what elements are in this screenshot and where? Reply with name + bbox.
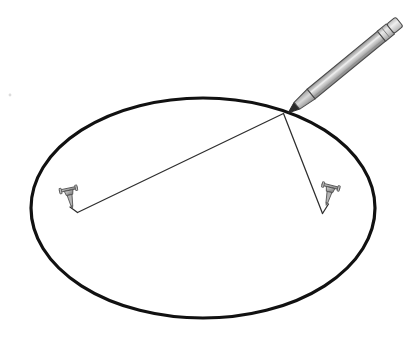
ellipse-construction-figure: A large horizontal ellipse drawn in blac… [0, 0, 417, 344]
ellipse-construction-canvas [0, 0, 417, 344]
paper-speck [9, 94, 12, 97]
